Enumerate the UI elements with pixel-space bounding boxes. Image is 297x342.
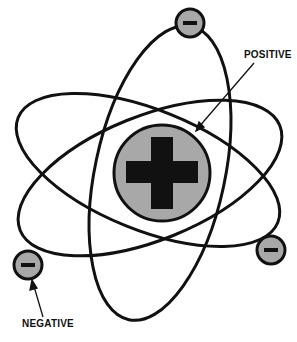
atom-diagram: POSITIVE NEGATIVE [0,0,297,342]
electron-left [14,251,42,279]
minus-icon [264,248,278,252]
positive-label: POSITIVE [244,49,292,60]
nucleus [114,125,210,221]
negative-label: NEGATIVE [22,318,74,329]
electron-right [257,236,285,264]
minus-icon [21,263,35,267]
electron-top [176,9,204,37]
minus-icon [183,21,197,25]
